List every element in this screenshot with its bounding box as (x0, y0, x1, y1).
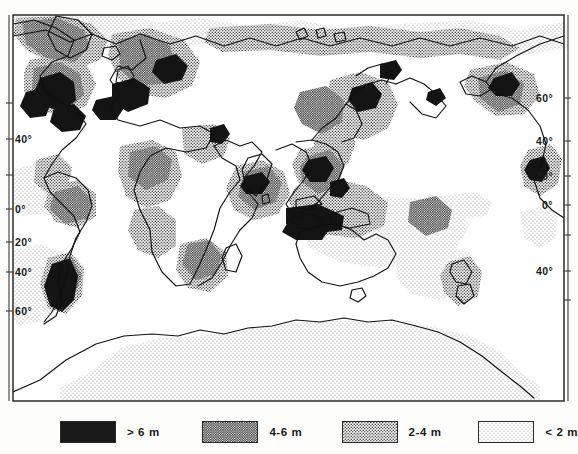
legend-label-2to4m: 2-4 m (409, 426, 442, 438)
lat-label-left-40n: 40° (15, 133, 32, 145)
legend-swatch-lt2m (478, 421, 534, 443)
lat-label-right-0: 0° (542, 199, 553, 211)
legend-swatch-gt6m (60, 421, 116, 443)
legend-label-lt2m: < 2 m (545, 426, 578, 438)
legend-label-gt6m: > 6 m (127, 426, 160, 438)
legend-item-4to6m: 4-6 m (202, 421, 302, 443)
legend-label-4to6m: 4-6 m (269, 426, 302, 438)
lat-label-left-20s: 20° (15, 236, 32, 248)
lat-label-left-60s: 60° (15, 305, 32, 317)
lat-label-right-40n: 40° (536, 135, 553, 147)
legend-swatch-4to6m (202, 421, 258, 443)
lat-label-right-20n: 20° (536, 170, 553, 182)
tidal-range-map-page: 40° 0° 20° 40° 60° 60° 40° 20° 0° 40° > … (0, 0, 578, 454)
lat-label-right-40s: 40° (536, 265, 553, 277)
map-canvas: 40° 0° 20° 40° 60° 60° 40° 20° 0° 40° (0, 0, 578, 410)
lat-label-left-40s: 40° (15, 266, 32, 278)
legend-item-2to4m: 2-4 m (342, 421, 442, 443)
world-map-svg (0, 0, 578, 410)
lat-label-right-60n: 60° (536, 92, 553, 104)
legend-item-lt2m: < 2 m (478, 421, 578, 443)
legend-item-gt6m: > 6 m (60, 421, 160, 443)
legend: > 6 m 4-6 m (0, 410, 578, 454)
legend-swatch-2to4m (342, 421, 398, 443)
lat-label-left-0: 0° (15, 203, 26, 215)
